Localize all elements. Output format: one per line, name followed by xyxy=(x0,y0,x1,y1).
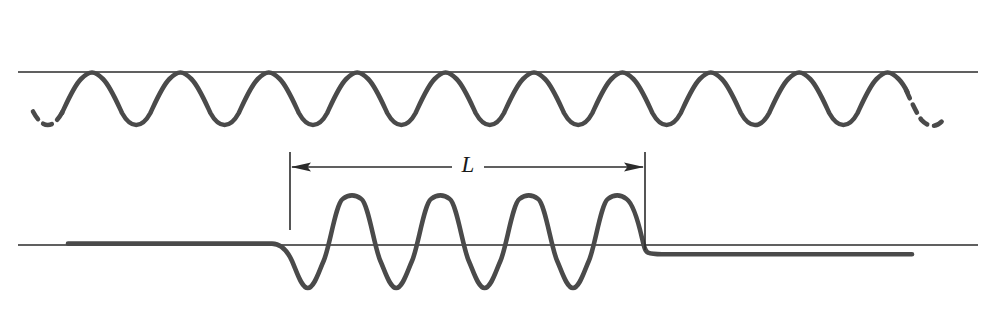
top-wave-dashed-right-segment xyxy=(906,90,942,126)
wave-figure-svg: L xyxy=(0,0,1000,317)
wave-packet-path xyxy=(68,195,912,288)
length-label: L xyxy=(461,152,475,177)
figure-container: L xyxy=(0,0,1000,317)
infinite-wave-train-group xyxy=(18,72,978,126)
finite-wave-packet-group xyxy=(18,195,978,288)
top-wave-dashed-left-segment xyxy=(33,112,63,126)
top-wave-solid-train xyxy=(62,73,907,126)
